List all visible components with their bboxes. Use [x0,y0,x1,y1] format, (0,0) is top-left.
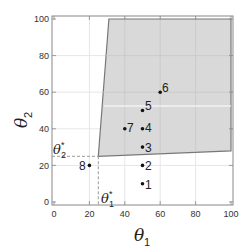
x-tick-label: 100 [223,209,238,219]
y-tick-label: 40 [39,124,49,134]
svg-text:*: * [61,140,65,150]
svg-text:θ: θ [53,142,61,157]
x-axis-title: θ 1 [134,225,150,248]
point-3 [141,145,145,149]
svg-text:2: 2 [61,150,66,160]
point-label-2: 2 [145,159,152,173]
x-tick-label: 80 [191,209,201,219]
point-label-3: 3 [145,141,152,155]
theta2-star-label: θ 2 * [53,140,66,160]
y-tick-label: 80 [39,51,49,61]
theta1-star-label: θ 1 * [101,189,114,209]
y-tick-labels: 0 20 40 60 80 100 [34,14,49,207]
reference-lines [52,156,98,205]
x-tick-labels: 0 20 40 60 80 100 [51,209,238,219]
svg-text:1: 1 [144,236,150,248]
x-tick-label: 40 [120,209,130,219]
scatter-chart: 0 20 40 60 80 100 0 20 40 60 80 100 θ 1 … [0,0,249,252]
svg-text:θ: θ [134,225,144,245]
point-4 [141,127,145,131]
y-tick-label: 60 [39,87,49,97]
x-tick-label: 20 [84,209,94,219]
x-tick-label: 60 [155,209,165,219]
svg-text:2: 2 [22,112,34,118]
y-tick-label: 100 [34,14,49,24]
point-2 [141,164,145,168]
svg-text:1: 1 [109,199,114,209]
point-label-4: 4 [145,121,152,135]
point-label-7: 7 [127,121,134,135]
point-label-6: 6 [162,81,169,95]
svg-text:θ: θ [101,191,109,206]
x-tick-label: 0 [51,209,56,219]
y-tick-label: 20 [39,161,49,171]
point-label-8: 8 [79,159,86,173]
point-5 [141,109,145,113]
y-axis-title: θ 2 [11,112,34,128]
y-tick-label: 0 [44,197,49,207]
svg-text:*: * [109,189,113,199]
point-8 [88,164,92,168]
svg-text:θ: θ [11,118,31,128]
point-label-1: 1 [145,178,152,192]
point-label-5: 5 [145,99,152,113]
point-1 [141,182,145,186]
